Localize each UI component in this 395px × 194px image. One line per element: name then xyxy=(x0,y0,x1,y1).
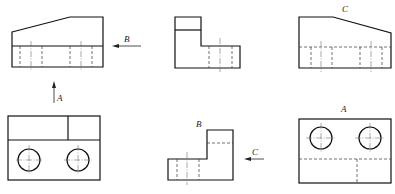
arrow-c: C xyxy=(244,147,264,161)
view-b: B xyxy=(168,119,233,185)
arrow-c-label: C xyxy=(252,147,259,157)
arrow-b-label: B xyxy=(124,34,130,44)
view-a: A xyxy=(299,104,391,183)
view-c: C xyxy=(299,4,391,72)
arrow-a-label: A xyxy=(56,93,63,103)
arrow-a: A xyxy=(52,81,63,103)
top-view xyxy=(8,116,100,180)
arrow-b: B xyxy=(112,34,141,48)
view-b-label: B xyxy=(196,119,202,129)
orthographic-drawing: B A C B xyxy=(0,0,395,194)
side-view xyxy=(175,17,240,72)
view-a-label: A xyxy=(340,104,347,114)
front-view xyxy=(12,17,103,71)
view-c-label: C xyxy=(342,4,349,14)
